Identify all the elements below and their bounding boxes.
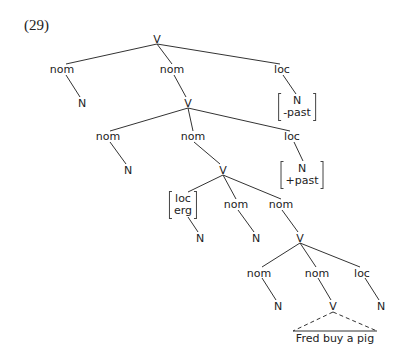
node-l4-nom-1: nom bbox=[247, 268, 271, 279]
node-l4-nom-2: nom bbox=[305, 268, 329, 279]
node-l1-n: N bbox=[78, 98, 86, 109]
node-l1-loc: loc bbox=[274, 64, 290, 75]
node-l4-v: V bbox=[329, 301, 337, 312]
node-l2-loc: loc bbox=[284, 131, 300, 142]
node-l2-v: V bbox=[219, 165, 227, 176]
node-l4-n-1: N bbox=[274, 301, 282, 312]
node-l3-nom-1: nom bbox=[224, 199, 248, 210]
feature-bracket-n-plus-past: N +past bbox=[281, 162, 324, 188]
node-l3-n-1: N bbox=[196, 233, 204, 244]
node-l2-nom-2: nom bbox=[181, 131, 205, 142]
node-l1-nom-1: nom bbox=[50, 64, 74, 75]
node-l4-loc: loc bbox=[354, 268, 370, 279]
terminal-string: Fred buy a pig bbox=[296, 333, 374, 344]
feature-erg: erg bbox=[174, 205, 192, 217]
node-l1-v: V bbox=[184, 98, 192, 109]
feature-bracket-loc-erg: loc erg bbox=[169, 192, 197, 218]
node-l2-n: N bbox=[124, 165, 132, 176]
feature-plus-past: +past bbox=[286, 175, 319, 187]
node-l4-n-2: N bbox=[377, 301, 385, 312]
node-root-v: V bbox=[153, 34, 161, 45]
node-l3-n-2: N bbox=[252, 233, 260, 244]
node-l3-nom-2: nom bbox=[269, 199, 293, 210]
node-l1-nom-2: nom bbox=[160, 64, 184, 75]
tree-edges bbox=[0, 0, 403, 358]
feature-bracket-n-minus-past: N -past bbox=[278, 94, 316, 120]
feature-minus-past: -past bbox=[283, 107, 311, 119]
node-l3-v: V bbox=[296, 233, 304, 244]
node-l2-nom-1: nom bbox=[96, 131, 120, 142]
